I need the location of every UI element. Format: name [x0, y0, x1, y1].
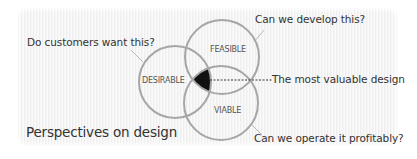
viable-question: Can we operate it profitably?: [254, 132, 404, 144]
intersection-label: The most valuable design: [272, 73, 405, 85]
diagram-title: Perspectives on design: [26, 124, 177, 140]
desirable-leader-line: [131, 50, 143, 62]
feasible-circle-label: FEASIBLE: [210, 45, 246, 54]
desirable-question: Do customers want this?: [27, 36, 155, 48]
diagram-stage: Do customers want this? Can we develop t…: [0, 0, 417, 159]
feasible-question: Can we develop this?: [255, 13, 365, 25]
viable-circle: [184, 66, 258, 140]
viable-circle-label: VIABLE: [214, 106, 241, 115]
feasible-circle: [185, 20, 259, 94]
desirable-circle-label: DESIRABLE: [142, 76, 185, 85]
